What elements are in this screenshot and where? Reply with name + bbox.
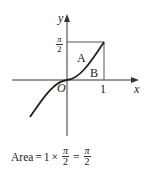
origin-label: O xyxy=(57,82,66,94)
area-equation: Area = 1 × π 2 = π 2 xyxy=(10,146,94,167)
fraction-2-denominator: 2 xyxy=(85,157,90,167)
region-a-label: A xyxy=(77,52,86,64)
y-tick-denominator: 2 xyxy=(57,45,62,54)
times-sign: × xyxy=(52,151,59,163)
y-axis-label: y xyxy=(58,12,63,24)
y-axis-arrow-icon xyxy=(64,14,70,22)
factor-one: 1 xyxy=(44,151,50,163)
fraction-1-denominator: 2 xyxy=(63,157,68,167)
equals-sign: = xyxy=(35,151,42,163)
fraction-2: π 2 xyxy=(83,146,92,167)
equals-sign-2: = xyxy=(73,151,80,163)
y-tick-label: π 2 xyxy=(56,35,63,54)
x-axis-label: x xyxy=(134,83,139,95)
x-tick-label: 1 xyxy=(100,83,106,95)
region-b-label: B xyxy=(90,67,98,79)
fraction-1: π 2 xyxy=(61,146,70,167)
area-word: Area xyxy=(11,151,33,163)
